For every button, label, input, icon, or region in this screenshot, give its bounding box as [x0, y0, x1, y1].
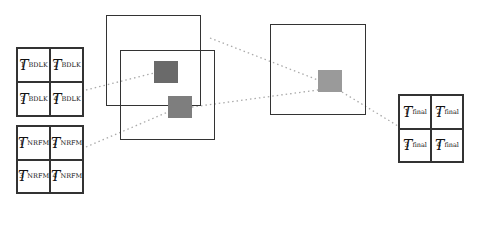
final-grid: T1final T2final T3final T4final	[398, 94, 464, 163]
final-cell-3: T3final	[399, 129, 431, 163]
final-cell-1: T1final	[399, 95, 431, 129]
nrfm-cell-3: T3NRFM	[17, 160, 50, 194]
bdlk-cell-3: T3BDLK	[17, 82, 50, 116]
patch-b	[168, 96, 192, 118]
final-cell-2: T2final	[431, 95, 463, 129]
bdlk-cell-1: T1BDLK	[17, 48, 50, 82]
patch-a	[154, 61, 178, 83]
fused-patch	[318, 70, 342, 92]
nrfm-grid: T1NRFM T2NRFM T3NRFM T4NRFM	[16, 125, 84, 194]
nrfm-cell-2: T2NRFM	[50, 126, 83, 160]
bdlk-cell-2: T2BDLK	[50, 48, 83, 82]
nrfm-cell-4: T4NRFM	[50, 160, 83, 194]
nrfm-cell-1: T1NRFM	[17, 126, 50, 160]
bdlk-cell-4: T4BDLK	[50, 82, 83, 116]
bdlk-grid: T1BDLK T2BDLK T3BDLK T4BDLK	[16, 47, 84, 117]
final-cell-4: T4final	[431, 129, 463, 163]
